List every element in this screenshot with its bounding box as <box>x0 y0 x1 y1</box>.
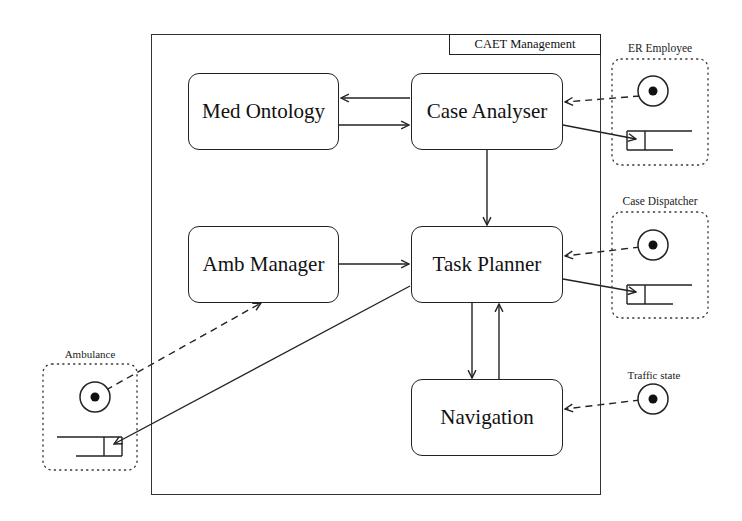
er-employee-output-queue-icon[interactable] <box>627 131 692 150</box>
ambulance-output-queue-icon[interactable] <box>57 437 122 456</box>
component-label: Case Analyser <box>427 99 548 124</box>
er-employee-input-port-icon[interactable] <box>638 76 668 106</box>
container-title: CAET Management <box>475 37 576 52</box>
component-label: Med Ontology <box>202 99 325 124</box>
component-case-analyser[interactable]: Case Analyser <box>411 73 563 150</box>
ambulance-input-port-icon[interactable] <box>80 382 110 412</box>
component-label: Task Planner <box>433 252 542 277</box>
component-navigation[interactable]: Navigation <box>411 379 563 456</box>
case-dispatcher-output-queue-icon[interactable] <box>627 285 692 304</box>
component-amb-manager[interactable]: Amb Manager <box>188 226 339 303</box>
component-task-planner[interactable]: Task Planner <box>411 226 563 303</box>
component-label: Navigation <box>440 405 533 430</box>
agent-label-traffic-state: Traffic state <box>612 369 696 381</box>
component-label: Amb Manager <box>203 252 325 277</box>
agent-label-er-employee: ER Employee <box>612 42 708 54</box>
case-dispatcher-input-port-icon[interactable] <box>638 230 668 260</box>
agent-label-case-dispatcher: Case Dispatcher <box>606 195 714 207</box>
agent-label-ambulance: Ambulance <box>43 348 137 360</box>
traffic-state-input-port-icon[interactable] <box>638 384 668 414</box>
component-med-ontology[interactable]: Med Ontology <box>188 73 339 150</box>
container-title-tab: CAET Management <box>449 34 601 55</box>
